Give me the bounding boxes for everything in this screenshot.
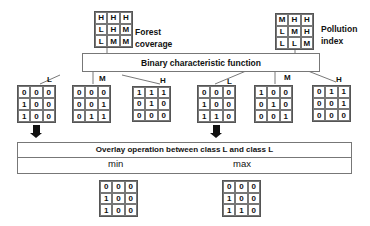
grid-cell: 0 [112, 181, 124, 193]
grid-cell: 0 [98, 86, 110, 98]
grid-cell: M [276, 14, 288, 26]
forest-class-label-h: H [160, 76, 166, 85]
grid-cell: 0 [30, 86, 42, 98]
grid-cell: 0 [30, 110, 42, 122]
result-max-grid: 0 0 0 1 0 0 1 1 0 [222, 180, 261, 217]
forest-class-m-grid: 0 0 0 0 0 1 0 1 1 [72, 85, 111, 123]
grid-cell: 1 [198, 98, 210, 110]
bcf-title: Binary characteristic function [141, 58, 261, 68]
grid-cell: 0 [338, 109, 350, 121]
grid-cell: 0 [313, 86, 325, 98]
grid-cell: 0 [85, 86, 97, 98]
grid-cell: 0 [133, 110, 145, 121]
grid-cell: 0 [43, 98, 55, 110]
pollution-class-label-h: H [336, 75, 342, 84]
overlay-min-label: min [108, 158, 123, 169]
grid-cell: 0 [85, 98, 97, 110]
overlay-title: Overlay operation between class L and cl… [18, 143, 351, 158]
grid-cell: L [95, 24, 107, 36]
grid-cell: H [107, 24, 119, 36]
grid-cell: 0 [100, 181, 112, 193]
grid-cell: 0 [43, 86, 55, 98]
grid-cell: M [120, 24, 132, 36]
grid-cell: L [95, 35, 107, 47]
grid-cell: 1 [18, 98, 30, 110]
grid-cell: 1 [100, 204, 112, 216]
grid-cell: 1 [223, 193, 235, 205]
overlay-max-label: max [233, 158, 251, 169]
label-line: Forest [135, 26, 172, 38]
binary-characteristic-function-box: Binary characteristic function [82, 53, 320, 72]
grid-cell: 0 [73, 110, 85, 122]
grid-cell: 0 [125, 193, 137, 205]
pollution-index-grid: M H H L M H L L M [275, 13, 314, 50]
forest-class-l-grid: 0 0 0 1 0 0 1 0 0 [17, 85, 56, 123]
grid-cell: 0 [248, 204, 260, 216]
grid-cell: H [301, 26, 313, 38]
forest-coverage-grid: H H H L H M L M M [94, 11, 133, 48]
pollution-class-l-grid: 0 0 0 1 0 0 1 1 0 [197, 85, 236, 123]
forest-class-label-m: M [99, 74, 106, 83]
grid-cell: 0 [112, 204, 124, 216]
grid-cell: 1 [98, 98, 110, 110]
grid-cell: 0 [255, 110, 267, 122]
grid-cell: 0 [235, 181, 247, 193]
down-arrow-icon [213, 125, 220, 133]
grid-cell: L [276, 26, 288, 38]
grid-cell: 0 [248, 181, 260, 193]
grid-cell: 0 [223, 181, 235, 193]
grid-cell: 0 [248, 193, 260, 205]
forest-class-label-l: L [47, 75, 52, 84]
grid-cell: 0 [18, 86, 30, 98]
grid-cell: 1 [198, 110, 210, 122]
grid-cell: 1 [223, 204, 235, 216]
down-arrow-icon [33, 125, 40, 133]
grid-cell: 1 [100, 193, 112, 205]
grid-cell: 0 [30, 98, 42, 110]
grid-cell: 0 [158, 98, 170, 109]
grid-cell: 0 [223, 86, 235, 98]
grid-cell: 1 [338, 86, 350, 98]
grid-cell: 0 [255, 98, 267, 110]
grid-cell: 0 [280, 98, 292, 110]
grid-cell: 1 [145, 87, 157, 98]
label-line: index [321, 35, 357, 47]
grid-cell: 1 [280, 110, 292, 122]
grid-cell: L [276, 37, 288, 49]
grid-cell: 0 [325, 98, 337, 110]
grid-cell: L [288, 37, 300, 49]
forest-coverage-label: Forest coverage [135, 26, 172, 50]
grid-cell: 1 [210, 110, 222, 122]
grid-cell: 1 [338, 98, 350, 110]
grid-cell: 0 [280, 86, 292, 98]
grid-cell: 0 [125, 181, 137, 193]
grid-cell: 0 [145, 110, 157, 121]
grid-cell: 0 [73, 98, 85, 110]
grid-cell: 1 [235, 204, 247, 216]
grid-cell: H [288, 14, 300, 26]
grid-cell: 0 [235, 193, 247, 205]
grid-cell: 0 [43, 110, 55, 122]
grid-cell: 0 [73, 86, 85, 98]
grid-cell: M [107, 35, 119, 47]
grid-cell: 0 [112, 193, 124, 205]
grid-cell: 1 [267, 98, 279, 110]
label-line: coverage [135, 38, 172, 50]
grid-cell: 0 [158, 110, 170, 121]
grid-cell: H [95, 12, 107, 24]
grid-cell: 0 [223, 110, 235, 122]
grid-cell: 1 [98, 110, 110, 122]
pollution-class-h-grid: 0 1 1 0 0 1 0 0 0 [312, 85, 351, 122]
grid-cell: 0 [210, 98, 222, 110]
grid-cell: 1 [18, 110, 30, 122]
grid-cell: H [120, 12, 132, 24]
grid-cell: 0 [267, 86, 279, 98]
grid-cell: 1 [145, 98, 157, 109]
grid-cell: M [120, 35, 132, 47]
grid-cell: 0 [313, 109, 325, 121]
grid-cell: 0 [133, 98, 145, 109]
grid-cell: 0 [210, 86, 222, 98]
pollution-class-m-grid: 1 0 0 0 1 0 0 0 1 [254, 85, 293, 123]
grid-cell: 0 [125, 204, 137, 216]
grid-cell: 1 [325, 86, 337, 98]
